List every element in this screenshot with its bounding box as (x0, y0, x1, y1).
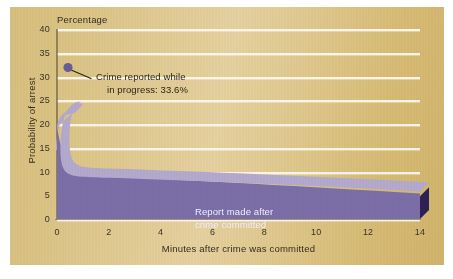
x-tick-label-14: 14 (415, 227, 425, 237)
x-tick-label-0: 0 (54, 227, 59, 237)
x-tick-label-2: 2 (106, 227, 111, 237)
x-axis-title: Minutes after crime was committed (57, 243, 420, 254)
callout-line-2: in progress: 33.6% (96, 84, 188, 97)
x-tick-label-10: 10 (311, 227, 321, 237)
x-tick-label-4: 4 (158, 227, 163, 237)
in-progress-callout: Crime reported while in progress: 33.6% (96, 71, 188, 96)
y-tick-label-15: 15 (40, 143, 50, 153)
y-tick-label-5: 5 (45, 190, 50, 200)
x-tick-label-12: 12 (363, 227, 373, 237)
series-label-line-1: Report made after (195, 206, 273, 217)
y-tick-label-35: 35 (40, 48, 50, 58)
y-tick-label-40: 40 (40, 24, 50, 34)
series-label-line-2: crime committed (195, 219, 266, 230)
y-tick-label-10: 10 (40, 167, 50, 177)
chart-figure: Percentage Probability of arrest Minutes… (0, 0, 453, 279)
chart-panel: Percentage Probability of arrest Minutes… (10, 7, 444, 265)
y-axis-title: Probability of arrest (26, 61, 37, 181)
callout-leader-line (70, 70, 91, 79)
y-axis-unit-label: Percentage (57, 14, 108, 25)
callout-line-1: Crime reported while (96, 71, 186, 82)
data-point-in-progress[interactable] (63, 63, 72, 72)
plot-area: 40 35 30 25 20 15 10 5 0 0 2 4 6 8 10 12… (57, 29, 420, 219)
y-tick-label-0: 0 (45, 214, 50, 224)
area-series-label: Report made after crime committed (195, 206, 273, 231)
area-series-graphic (55, 25, 427, 225)
y-tick-label-25: 25 (40, 95, 50, 105)
y-tick-label-20: 20 (40, 119, 50, 129)
y-tick-label-30: 30 (40, 72, 50, 82)
